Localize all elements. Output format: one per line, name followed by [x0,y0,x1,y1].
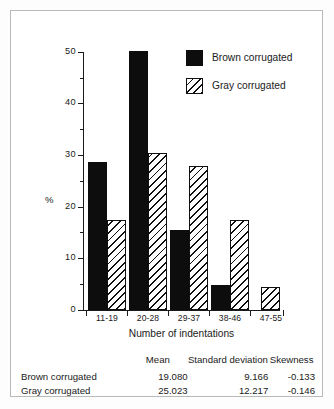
bar-gray-38-46 [230,220,249,310]
bar-gray-47-55 [261,287,280,310]
bar-gray-11-19 [107,220,126,310]
plot-area: 50 40 30 20 10 0 % [0,0,334,409]
header-blank [14,352,128,370]
x-tick-label-29-37: 29-37 [170,313,208,323]
bar-brown-20-28 [129,51,148,310]
legend-item-brown-corrugated: Brown corrugated [186,47,292,68]
row-label-gray-corrugated: Gray corrugated [14,384,128,398]
x-sep-2 [168,310,169,316]
cell-gray-mean: 25.023 [128,384,188,398]
table-row: Gray corrugated 25.023 12.217 -0.146 [14,384,319,398]
x-sep-3 [209,310,210,316]
header-standard-deviation: Standard deviation [188,352,269,370]
cell-gray-skew: -0.146 [268,384,319,398]
cell-brown-mean: 19.080 [128,370,188,384]
x-sep-1 [127,310,128,316]
x-axis-title: Number of indentations [83,328,280,339]
header-skewness: Skewness [268,352,319,370]
chart-legend: Brown corrugated Gray corrugated [186,47,292,103]
bar-brown-38-46 [211,285,230,310]
x-tick-label-20-28: 20-28 [129,313,167,323]
cell-brown-sd: 9.166 [188,370,269,384]
solid-black-swatch-icon [186,50,203,66]
summary-statistics-table: Mean Standard deviation Skewness Brown c… [14,352,319,398]
legend-label-brown: Brown corrugated [212,52,292,63]
legend-item-gray-corrugated: Gray corrugated [186,75,292,96]
table-header-row: Mean Standard deviation Skewness [14,352,319,370]
bar-gray-29-37 [189,166,208,310]
cell-gray-sd: 12.217 [188,384,269,398]
bar-gray-20-28 [148,153,167,310]
x-tick-label-47-55: 47-55 [252,313,290,323]
stats-table: Mean Standard deviation Skewness Brown c… [14,352,319,398]
x-tick-label-38-46: 38-46 [211,313,249,323]
x-sep-4 [250,310,251,316]
legend-label-gray: Gray corrugated [212,80,286,91]
table-row: Brown corrugated 19.080 9.166 -0.133 [14,370,319,384]
diagonal-hatch-swatch-icon [186,78,203,94]
cell-brown-skew: -0.133 [268,370,319,384]
row-label-brown-corrugated: Brown corrugated [14,370,128,384]
bar-brown-29-37 [170,230,189,310]
figure-container: 50 40 30 20 10 0 % [0,0,334,409]
bar-brown-11-19 [88,162,107,310]
x-sep-0 [86,310,87,316]
x-tick-label-11-19: 11-19 [88,313,126,323]
header-mean: Mean [128,352,188,370]
